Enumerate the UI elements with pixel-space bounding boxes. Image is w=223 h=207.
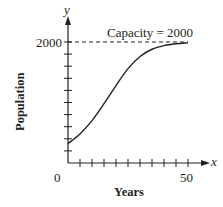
x-axis-label: Years	[114, 186, 144, 199]
population-curve	[68, 43, 188, 144]
x-axis-arrow-icon	[201, 160, 210, 166]
x-tick-label-0: 0	[54, 171, 61, 184]
capacity-annotation: Capacity = 2000	[107, 26, 193, 39]
y-axis-symbol: y	[64, 3, 70, 16]
x-tick-label-50: 50	[180, 171, 193, 184]
y-tick-label-2000: 2000	[36, 36, 62, 49]
y-axis-label: Population	[13, 73, 28, 131]
x-axis-symbol: x	[211, 155, 217, 168]
y-axis-arrow-icon	[65, 16, 71, 25]
